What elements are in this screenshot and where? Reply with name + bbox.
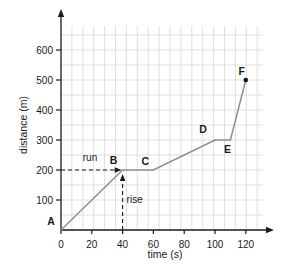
y-tick-label: 600 — [36, 45, 53, 56]
point-label-C: C — [142, 155, 150, 167]
x-tick-label: 40 — [117, 239, 129, 250]
y-tick-label: 400 — [36, 105, 53, 116]
point-label-B: B — [110, 154, 118, 166]
point-label-E: E — [224, 143, 231, 155]
y-axis-title: distance (m) — [17, 96, 29, 154]
x-tick-label: 120 — [237, 239, 254, 250]
run-label: run — [83, 152, 97, 163]
point-label-D: D — [199, 123, 207, 135]
rise-label: rise — [127, 194, 144, 205]
point-label-A: A — [47, 215, 55, 227]
y-tick-label: 200 — [36, 165, 53, 176]
point-label-F: F — [239, 65, 246, 77]
point-marker-F — [244, 78, 249, 83]
distance-time-graph-figure: 100200300400500600020406080100120time (s… — [0, 0, 292, 275]
y-tick-label: 300 — [36, 135, 53, 146]
x-tick-label: 20 — [86, 239, 98, 250]
x-tick-label: 0 — [58, 239, 64, 250]
y-tick-label: 100 — [36, 195, 53, 206]
x-axis-title: time (s) — [148, 248, 183, 260]
chart-svg: 100200300400500600020406080100120time (s… — [0, 0, 292, 275]
y-tick-label: 500 — [36, 75, 53, 86]
x-tick-label: 100 — [207, 239, 224, 250]
